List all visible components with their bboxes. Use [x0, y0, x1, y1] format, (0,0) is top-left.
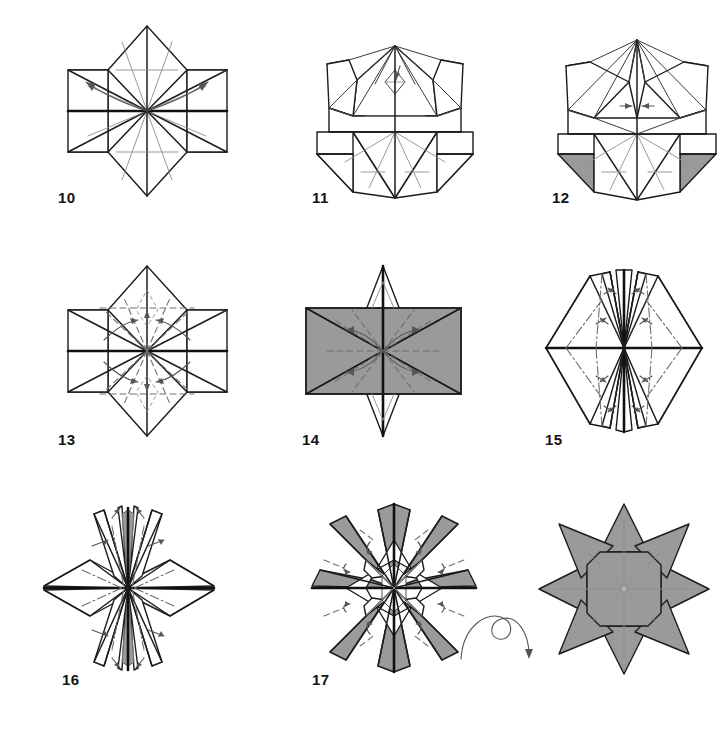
figure-step-10-drawing	[60, 22, 235, 200]
step-label-10: 10	[58, 190, 76, 205]
diagram-sheet: 10	[0, 0, 725, 735]
figure-step-12	[548, 22, 725, 204]
step-label-11: 11	[312, 190, 329, 205]
figure-step-16	[30, 500, 226, 678]
figure-step-10	[60, 22, 235, 200]
figure-step-18-drawing	[535, 500, 713, 678]
figure-step-15-drawing	[530, 262, 718, 442]
step-label-15: 15	[545, 432, 563, 447]
figure-step-12-drawing	[548, 22, 725, 204]
figure-step-14	[296, 262, 471, 440]
step-label-17: 17	[312, 672, 330, 687]
turn-over-arrow-icon	[455, 605, 537, 667]
figure-step-11-drawing	[305, 22, 485, 204]
step-label-12: 12	[552, 190, 570, 205]
figure-step-15	[530, 262, 718, 442]
step-label-14: 14	[302, 432, 320, 447]
step-label-16: 16	[62, 672, 80, 687]
figure-step-13-drawing	[60, 262, 235, 440]
figure-step-13	[60, 262, 235, 440]
turn-over-symbol	[455, 605, 537, 671]
center-dot	[621, 586, 627, 592]
figure-step-14-drawing	[296, 262, 471, 440]
figure-step-16-drawing	[30, 500, 226, 678]
figure-step-18-finished	[535, 500, 713, 678]
figure-step-11	[305, 22, 485, 204]
step-label-13: 13	[58, 432, 76, 447]
